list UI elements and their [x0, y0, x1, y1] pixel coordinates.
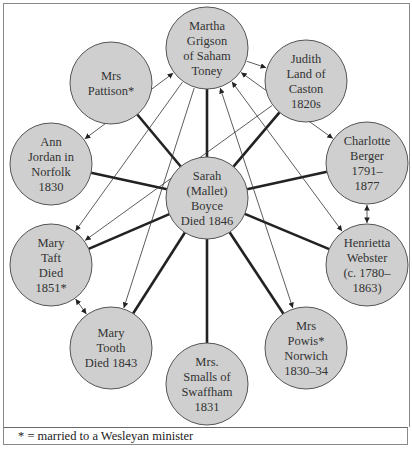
node-label: Judith	[291, 52, 322, 66]
node-label: 1820s	[291, 97, 321, 111]
node-label: Land of	[286, 67, 326, 81]
node-label: 1863)	[352, 281, 381, 295]
footer-note: * = married to a Wesleyan minister	[18, 429, 193, 444]
arrow-martha-judith	[247, 61, 266, 67]
node-label: (c. 1780–	[343, 266, 391, 280]
node-label: Toney	[191, 64, 223, 78]
node-label: 1831	[195, 400, 220, 414]
spoke-line-ann	[91, 173, 167, 190]
node-label: Powis*	[288, 334, 325, 348]
node-judith: JudithLand ofCaston1820s	[265, 40, 347, 122]
node-label: Webster	[347, 251, 388, 265]
node-taft: MaryTaftDied1851*	[10, 224, 92, 306]
spoke-line-tooth	[133, 233, 185, 314]
node-label: of Saham	[183, 49, 231, 63]
node-label: Norwich	[284, 349, 328, 363]
node-label: Mrs.	[195, 355, 218, 369]
spoke-line-powis	[230, 232, 284, 314]
network-diagram: Sarah(Mallet)BoyceDied 1846MarthaGrigson…	[4, 4, 412, 430]
node-label: (Mallet)	[187, 184, 228, 198]
node-label: Martha	[189, 19, 226, 33]
node-label: Caston	[289, 82, 324, 96]
node-label: 1877	[355, 179, 380, 193]
footer: * = married to a Wesleyan minister	[3, 427, 408, 445]
arrow-taft-tooth	[76, 299, 87, 314]
node-label: Mary	[97, 326, 125, 340]
node-label: Died	[39, 266, 64, 280]
node-label: Smalls of	[183, 370, 231, 384]
node-label: Sarah	[193, 169, 222, 183]
node-label: 1851*	[35, 281, 66, 295]
node-label: 1830–34	[284, 364, 329, 378]
node-label: 1791–	[351, 164, 383, 178]
spoke-line-taft	[89, 214, 170, 249]
node-label: Mrs	[101, 69, 121, 83]
node-label: Henrietta	[344, 236, 391, 250]
node-sarah: Sarah(Mallet)BoyceDied 1846	[166, 157, 248, 239]
node-label: Mary	[37, 236, 65, 250]
node-label: Swaffham	[181, 385, 232, 399]
diagram-frame: Sarah(Mallet)BoyceDied 1846MarthaGrigson…	[3, 3, 410, 427]
node-smalls: Mrs.Smalls ofSwaffham1831	[166, 343, 248, 425]
nodes: Sarah(Mallet)BoyceDied 1846MarthaGrigson…	[10, 7, 408, 425]
node-label: 1830	[39, 180, 64, 194]
node-label: Boyce	[191, 199, 223, 213]
spoke-line-henrietta	[245, 214, 329, 249]
node-label: Died 1843	[85, 356, 137, 370]
node-charlotte: CharlotteBerger1791–1877	[326, 122, 408, 204]
node-martha: MarthaGrigsonof SahamToney	[166, 7, 248, 89]
node-henrietta: HenriettaWebster(c. 1780–1863)	[326, 224, 408, 306]
node-label: Ann	[40, 135, 62, 149]
spoke-line-charlotte	[247, 172, 327, 189]
node-label: Jordan in	[28, 150, 75, 164]
node-label: Taft	[41, 251, 61, 265]
spoke-line-judith	[233, 112, 279, 166]
node-label: Mrs	[296, 319, 316, 333]
node-powis: MrsPowis*Norwich1830–34	[265, 307, 347, 389]
node-tooth: MaryToothDied 1843	[70, 307, 152, 389]
node-label: Died 1846	[181, 214, 233, 228]
node-label: Tooth	[97, 341, 127, 355]
node-label: Grigson	[187, 34, 228, 48]
spoke-line-pattison	[137, 114, 180, 166]
node-label: Norfolk	[31, 165, 71, 179]
node-label: Berger	[350, 149, 385, 163]
node-ann: AnnJordan inNorfolk1830	[10, 123, 92, 205]
node-pattison: MrsPattison*	[70, 42, 152, 124]
node-label: Charlotte	[344, 134, 391, 148]
node-label: Pattison*	[88, 84, 135, 98]
